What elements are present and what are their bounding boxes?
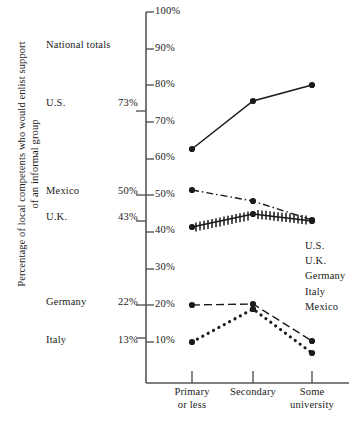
series-line-uk <box>189 210 315 232</box>
x-tick-label-university: Some university <box>272 386 352 411</box>
x-tick-label-secondary-line1: Secondary <box>230 386 276 397</box>
legend-item-uk: U.K. <box>305 253 345 268</box>
y-axis-ticks-left-national-totals <box>136 111 146 338</box>
legend-item-mexico: Mexico <box>305 299 345 314</box>
data-point-italy-university <box>309 350 315 356</box>
x-tick-label-university-line2: university <box>290 399 334 410</box>
chart-legend: U.S. U.K. Germany Italy Mexico <box>305 238 345 314</box>
chart-figure: Percentage of local competents who would… <box>0 0 359 424</box>
data-point-germany-primary <box>189 302 195 308</box>
data-point-mexico-secondary <box>250 198 256 204</box>
data-point-mexico-primary <box>189 187 195 193</box>
y-axis-ticks-right <box>146 12 154 342</box>
data-point-uk-secondary <box>250 211 256 217</box>
legend-item-italy: Italy <box>305 284 345 299</box>
data-point-uk-primary <box>189 224 195 230</box>
data-point-us-primary <box>189 146 195 152</box>
data-point-uk-university <box>309 218 315 224</box>
chart-canvas <box>0 0 359 424</box>
data-point-germany-university <box>309 338 315 344</box>
data-point-italy-secondary <box>250 306 256 312</box>
x-tick-label-university-line1: Some <box>300 386 325 397</box>
legend-item-us: U.S. <box>305 238 345 253</box>
data-point-italy-primary <box>189 339 195 345</box>
x-tick-label-primary-line2: or less <box>178 399 207 410</box>
series-line-us <box>189 82 315 152</box>
series-line-mexico <box>189 187 315 223</box>
x-axis-ticks <box>192 371 312 383</box>
data-point-us-secondary <box>250 98 256 104</box>
data-point-us-university <box>309 82 315 88</box>
x-tick-label-primary-line1: Primary <box>174 386 209 397</box>
legend-item-germany: Germany <box>305 268 345 283</box>
